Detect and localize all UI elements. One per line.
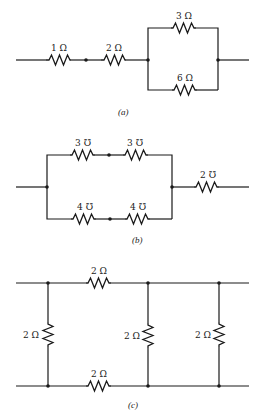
junction-node — [146, 281, 150, 285]
label-top-2ohm: 2 Ω — [91, 266, 107, 276]
junction-node — [84, 58, 88, 62]
caption-c: (c) — [128, 400, 138, 410]
conductance-4mho-b — [125, 214, 150, 224]
label-3mho-b: 3 ℧ — [127, 138, 144, 148]
caption-a: (a) — [118, 107, 129, 117]
label-2mho: 2 ℧ — [200, 170, 217, 180]
circuit-b: 3 ℧ 3 ℧ 4 ℧ 4 ℧ 2 ℧ (b) — [16, 138, 249, 245]
junction-node — [46, 384, 50, 388]
label-left-2ohm: 2 Ω — [23, 330, 39, 340]
junction-node — [217, 281, 221, 285]
circuit-a: 1 Ω 2 Ω 3 Ω 6 Ω (a) — [16, 11, 249, 117]
circuit-c: 2 Ω 2 Ω 2 Ω 2 Ω 2 Ω (c) — [16, 266, 249, 410]
label-2ohm: 2 Ω — [106, 43, 122, 53]
wire — [148, 60, 172, 90]
resistor-bottom-2ohm — [86, 381, 111, 391]
resistor-right-2ohm — [214, 322, 224, 347]
wire — [47, 187, 71, 219]
label-1ohm: 1 Ω — [51, 43, 67, 53]
conductance-3mho-b — [123, 150, 148, 160]
wire — [196, 28, 218, 90]
resistor-6ohm — [172, 85, 197, 95]
junction-node — [108, 217, 112, 221]
label-3mho-a: 3 ℧ — [75, 138, 92, 148]
label-4mho-b: 4 ℧ — [130, 202, 147, 212]
resistor-top-2ohm — [86, 278, 111, 288]
junction-node — [146, 384, 150, 388]
junction-node — [107, 153, 111, 157]
label-bottom-2ohm: 2 Ω — [91, 369, 107, 379]
conductance-4mho-a — [71, 214, 96, 224]
caption-b: (b) — [132, 235, 143, 245]
label-3ohm: 3 Ω — [176, 11, 192, 21]
conductance-3mho-a — [70, 150, 95, 160]
conductance-2mho — [194, 182, 219, 192]
label-middle-2ohm: 2 Ω — [124, 331, 140, 341]
resistor-2ohm — [101, 55, 126, 65]
circuit-figure: 1 Ω 2 Ω 3 Ω 6 Ω (a) 3 ℧ 3 ℧ 4 ℧ 4 ℧ 2 ℧ … — [0, 0, 262, 419]
label-right-2ohm: 2 Ω — [195, 330, 211, 340]
label-4mho-a: 4 ℧ — [77, 202, 94, 212]
wire — [148, 28, 171, 60]
resistor-1ohm — [46, 55, 71, 65]
resistor-3ohm — [171, 23, 196, 33]
junction-node — [217, 384, 221, 388]
resistor-middle-2ohm — [143, 323, 153, 348]
junction-node — [46, 281, 50, 285]
resistor-left-2ohm — [43, 322, 53, 347]
wire — [47, 155, 70, 187]
label-6ohm: 6 Ω — [177, 73, 193, 83]
wire — [148, 155, 172, 219]
